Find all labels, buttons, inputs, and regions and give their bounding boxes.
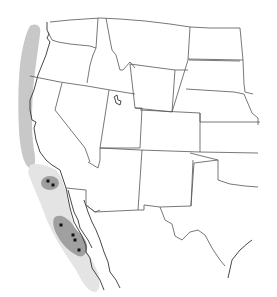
tx-mexico-border: [160, 207, 225, 266]
wa-or-border: [48, 32, 96, 48]
ne-ks-border: [200, 113, 260, 153]
canada-border: [50, 18, 240, 28]
mt-nd-border: [172, 27, 240, 112]
northern-coastal-band: [18, 24, 40, 168]
nv-ut-border: [100, 90, 109, 148]
occurrence-point: [60, 224, 63, 227]
occurrence-point: [74, 239, 77, 242]
texas-gulf-coast: [228, 240, 252, 278]
ut-co-border: [100, 108, 200, 152]
southern-california-cluster: [41, 176, 59, 190]
occurrence-point: [47, 180, 50, 183]
occurrence-point: [52, 184, 55, 187]
occurrence-point: [72, 234, 75, 237]
range-layer: [18, 24, 99, 292]
dakotas-border: [186, 28, 258, 125]
wyoming-border: [130, 64, 175, 112]
range-map: [0, 0, 277, 297]
ca-nv-border: [55, 83, 90, 162]
great-salt-lake: [114, 95, 121, 105]
or-ca-nv-border: [30, 76, 135, 94]
ok-tx-border: [190, 153, 258, 187]
occurrence-point: [78, 249, 81, 252]
idaho-west-border: [87, 18, 98, 83]
az-nm-tx-border: [86, 148, 218, 212]
idaho-montana-border: [106, 18, 135, 70]
